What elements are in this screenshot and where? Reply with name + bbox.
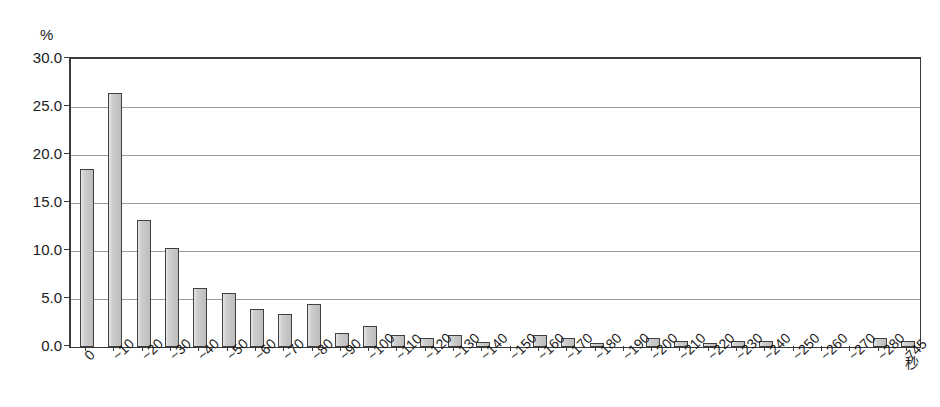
bar (193, 288, 207, 347)
plot-area (69, 57, 921, 348)
bar (137, 220, 151, 347)
bar (108, 93, 122, 347)
x-axis-tick-label: 0 (81, 346, 98, 363)
x-axis-unit-label: 秒 (905, 352, 919, 372)
y-axis-tick-labels: 0.05.010.015.020.025.030.0 (0, 0, 62, 407)
y-axis-tick-label: 0.0 (2, 337, 62, 354)
bar (222, 293, 236, 347)
histogram-chart: % 0.05.010.015.020.025.030.0 0~10~20~30~… (0, 0, 940, 407)
y-axis-tick-label: 30.0 (2, 49, 62, 66)
bar (80, 169, 94, 347)
y-axis-tick-label: 15.0 (2, 193, 62, 210)
y-axis-tick-label: 20.0 (2, 145, 62, 162)
bar (165, 248, 179, 347)
y-axis-tick-label: 10.0 (2, 241, 62, 258)
y-axis-tick-label: 5.0 (2, 289, 62, 306)
y-axis-tick-label: 25.0 (2, 97, 62, 114)
bars-layer (71, 59, 920, 347)
